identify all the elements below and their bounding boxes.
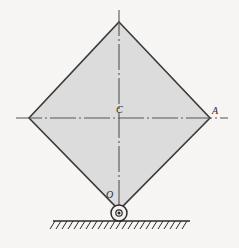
label-center-c: C bbox=[116, 105, 123, 115]
figure-canvas: C A O bbox=[0, 0, 239, 248]
pin-support-hub bbox=[118, 212, 121, 215]
label-vertex-a: A bbox=[212, 106, 218, 116]
mechanics-diagram bbox=[0, 0, 239, 248]
label-pivot-o: O bbox=[106, 190, 113, 200]
